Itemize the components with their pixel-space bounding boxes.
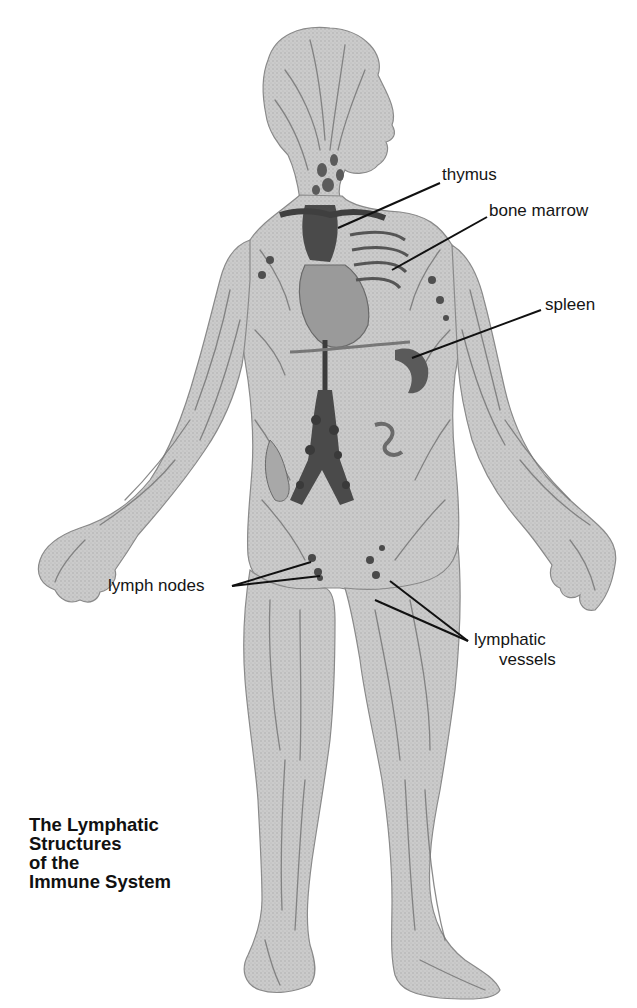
label-bone-marrow: bone marrow: [489, 202, 588, 220]
figure-title: The Lymphatic Structures of the Immune S…: [29, 815, 171, 891]
left-leg: [244, 570, 335, 992]
label-lymphatic: lymphatic: [474, 631, 546, 649]
head: [263, 27, 394, 200]
label-lymph-nodes: lymph nodes: [108, 577, 204, 595]
label-thymus: thymus: [442, 166, 497, 184]
title-line-2: Structures: [29, 834, 171, 853]
title-line-1: The Lymphatic: [29, 815, 171, 834]
label-spleen: spleen: [545, 296, 595, 314]
label-vessels: vessels: [499, 651, 556, 669]
title-line-3: of the: [29, 853, 171, 872]
title-line-4: Immune System: [29, 872, 171, 891]
right-leg: [345, 545, 500, 999]
left-arm: [38, 240, 250, 602]
torso: [238, 195, 463, 590]
